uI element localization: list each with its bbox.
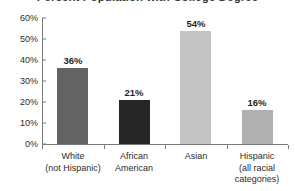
- bar[interactable]: [57, 68, 88, 144]
- y-axis-tick-label: 50%: [20, 34, 38, 44]
- y-axis-tick-mark: [42, 81, 46, 82]
- y-axis-tick-mark: [42, 102, 46, 103]
- y-axis-tick-labels: 0%10%20%30%40%50%60%: [0, 0, 38, 191]
- y-axis-tick-mark: [42, 39, 46, 40]
- x-axis-category-label-line: African: [115, 151, 153, 163]
- x-axis-tick-mark: [165, 145, 166, 149]
- chart-title: Percent Population with College Degree: [0, 0, 295, 3]
- x-axis-category-label-line: Hispanic: [235, 151, 280, 163]
- bar[interactable]: [119, 100, 150, 144]
- bar-value-label: 16%: [247, 97, 266, 108]
- y-axis-tick-label: 0%: [25, 139, 38, 149]
- y-axis-line: [42, 18, 43, 145]
- x-axis-category-label-line: (not Hispanic): [45, 163, 101, 175]
- bar[interactable]: [242, 110, 273, 144]
- x-axis-category-label-line: American: [115, 163, 153, 175]
- y-axis-tick-mark: [42, 18, 46, 19]
- x-axis-category-label-line: Asian: [185, 151, 208, 163]
- y-axis-tick-mark: [42, 60, 46, 61]
- y-axis-tick-mark: [42, 123, 46, 124]
- x-axis-category-label: AfricanAmerican: [115, 151, 153, 174]
- x-axis-category-label-line: categories): [235, 174, 280, 186]
- bar[interactable]: [180, 31, 211, 144]
- y-axis-tick-label: 30%: [20, 76, 38, 86]
- y-axis-tick-label: 10%: [20, 118, 38, 128]
- x-axis-category-label-line: (all racial: [235, 163, 280, 175]
- bar-value-label: 21%: [124, 87, 143, 98]
- y-axis-tick-label: 40%: [20, 55, 38, 65]
- y-axis-tick-label: 20%: [20, 97, 38, 107]
- bar-value-label: 54%: [186, 18, 205, 29]
- bar-chart: Percent Population with College Degree 0…: [0, 0, 295, 191]
- x-axis-tick-mark: [42, 145, 43, 149]
- x-axis-category-label: White(not Hispanic): [45, 151, 101, 174]
- x-axis-tick-mark: [227, 145, 228, 149]
- x-axis-category-label: Asian: [185, 151, 208, 163]
- x-axis-category-label: Hispanic(all racialcategories): [235, 151, 280, 186]
- y-axis-tick-label: 60%: [20, 13, 38, 23]
- x-axis-category-label-line: White: [45, 151, 101, 163]
- x-axis-tick-mark: [104, 145, 105, 149]
- x-axis-tick-mark: [288, 145, 289, 149]
- bar-value-label: 36%: [63, 55, 82, 66]
